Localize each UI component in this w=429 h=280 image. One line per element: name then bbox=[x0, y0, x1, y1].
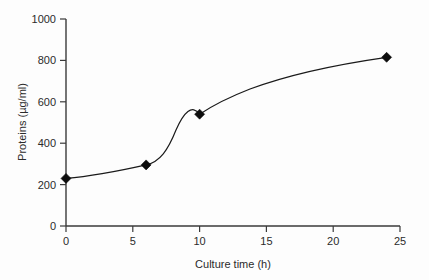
x-tick-label-15: 15 bbox=[260, 235, 272, 247]
x-axis-tick-labels: 0 5 10 15 20 25 bbox=[63, 235, 406, 247]
y-axis-ticks bbox=[60, 19, 66, 226]
y-tick-label-400: 400 bbox=[38, 137, 56, 149]
y-tick-label-800: 800 bbox=[38, 54, 56, 66]
data-marker-24h bbox=[382, 52, 392, 62]
y-tick-label-200: 200 bbox=[38, 179, 56, 191]
x-tick-label-20: 20 bbox=[327, 235, 339, 247]
x-tick-label-5: 5 bbox=[130, 235, 136, 247]
data-markers bbox=[61, 52, 392, 183]
data-marker-6h bbox=[141, 160, 151, 170]
y-axis-tick-labels: 0 200 400 600 800 1000 bbox=[32, 13, 56, 232]
y-tick-label-0: 0 bbox=[50, 220, 56, 232]
x-axis-title: Culture time (h) bbox=[195, 258, 271, 270]
y-axis-title: Proteins (µg/ml) bbox=[16, 83, 28, 161]
protein-curve bbox=[66, 57, 387, 178]
data-marker-0h bbox=[61, 173, 71, 183]
x-tick-label-25: 25 bbox=[394, 235, 406, 247]
x-axis-ticks bbox=[66, 226, 400, 232]
chart-figure: 0 200 400 600 800 1000 0 5 10 15 20 25 C… bbox=[0, 0, 429, 280]
y-tick-label-1000: 1000 bbox=[32, 13, 56, 25]
x-tick-label-10: 10 bbox=[193, 235, 205, 247]
x-tick-label-0: 0 bbox=[63, 235, 69, 247]
chart-plot-area: 0 200 400 600 800 1000 0 5 10 15 20 25 C… bbox=[0, 0, 429, 280]
y-tick-label-600: 600 bbox=[38, 96, 56, 108]
